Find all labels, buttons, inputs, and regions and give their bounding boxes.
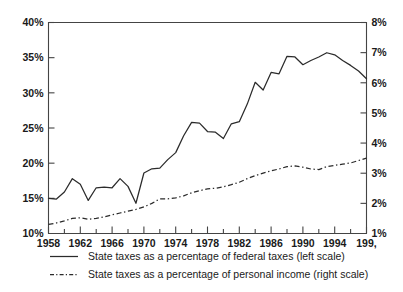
left-axis-tick-label: 15% (22, 192, 44, 204)
left-axis-tick-group: 10%15%20%25%30%35%40% (22, 16, 54, 239)
plot-frame (49, 23, 367, 234)
left-axis-tick-label: 40% (22, 16, 44, 28)
series-group (49, 53, 367, 225)
chart-container: 10%15%20%25%30%35%40% 1%2%3%4%5%6%7%8% 1… (0, 0, 403, 292)
line-chart: 10%15%20%25%30%35%40% 1%2%3%4%5%6%7%8% 1… (0, 0, 403, 292)
legend-item-label: State taxes as a percentage of personal … (88, 268, 368, 280)
left-axis-tick-label: 30% (22, 87, 44, 99)
right-axis-tick-label: 5% (372, 107, 388, 119)
right-axis-tick-label: 4% (372, 137, 388, 149)
right-axis-tick-label: 7% (372, 46, 388, 58)
right-axis-tick-label: 2% (372, 197, 388, 209)
x-axis-tick-label: 1990 (291, 237, 315, 249)
left-axis-tick-label: 25% (22, 122, 44, 134)
x-axis-tick-label: 199, (356, 237, 377, 249)
x-axis-tick-label: 1970 (132, 237, 156, 249)
right-axis-tick-label: 3% (372, 167, 388, 179)
x-axis-tick-label: 1994 (323, 237, 347, 249)
x-axis-tick-label: 1958 (37, 237, 61, 249)
series-line-federal-taxes (49, 53, 367, 204)
x-axis-tick-group: 1958196219661970197419781982198619901994… (37, 227, 377, 250)
right-axis-tick-group: 1%2%3%4%5%6%7%8% (361, 16, 388, 239)
right-axis-tick-label: 8% (372, 16, 388, 28)
legend-item-label: State taxes as a percentage of federal t… (88, 250, 345, 262)
x-axis-tick-label: 1982 (228, 237, 252, 249)
right-axis-tick-label: 6% (372, 77, 388, 89)
x-axis-tick-label: 1962 (69, 237, 93, 249)
x-axis-tick-label: 1978 (196, 237, 220, 249)
x-axis-tick-label: 1966 (100, 237, 124, 249)
x-axis-tick-label: 1986 (259, 237, 283, 249)
x-axis-tick-label: 1974 (164, 237, 188, 249)
series-line-personal-income (49, 158, 367, 224)
left-axis-tick-label: 20% (22, 157, 44, 169)
left-axis-tick-label: 35% (22, 51, 44, 63)
chart-legend: State taxes as a percentage of federal t… (50, 250, 368, 280)
